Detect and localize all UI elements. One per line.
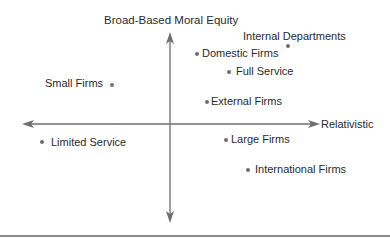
horizontal-axis — [22, 120, 320, 128]
point-label-limited-service: Limited Service — [51, 136, 126, 149]
bottom-rule — [0, 235, 390, 237]
y-axis-label: Broad-Based Moral Equity — [104, 14, 238, 27]
point-label-international-firms: International Firms — [255, 163, 346, 176]
point-label-large-firms: Large Firms — [231, 133, 290, 146]
point-internal-departments — [286, 44, 290, 48]
point-label-domestic-firms: Domestic Firms — [202, 47, 278, 60]
point-international-firms — [246, 168, 250, 172]
point-label-internal-departments: Internal Departments — [243, 30, 346, 43]
point-small-firms — [110, 83, 114, 87]
point-external-firms — [205, 100, 209, 104]
point-label-small-firms: Small Firms — [45, 77, 103, 90]
point-limited-service — [40, 140, 44, 144]
point-large-firms — [224, 138, 228, 142]
point-label-external-firms: External Firms — [211, 95, 282, 108]
point-full-service — [227, 70, 231, 74]
point-label-full-service: Full Service — [236, 65, 293, 78]
x-axis-label: Relativistic — [321, 118, 374, 131]
point-domestic-firms — [195, 52, 199, 56]
vertical-axis — [166, 32, 174, 223]
